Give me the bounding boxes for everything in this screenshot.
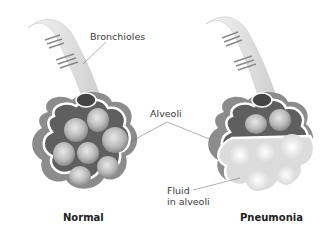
label-alveoli: Alveoli [150,108,182,119]
caption-pneumonia: Pneumonia [240,212,303,223]
pneumonia-bronchiole [206,17,276,96]
label-fluid-line2: in alveoli [167,196,210,207]
caption-normal: Normal [63,212,104,223]
normal-alveolar-sac [32,92,137,189]
pneumonia-alveolar-sac [208,92,314,191]
label-bronchioles: Bronchioles [90,31,145,42]
label-fluid-line1: Fluid [167,185,190,196]
